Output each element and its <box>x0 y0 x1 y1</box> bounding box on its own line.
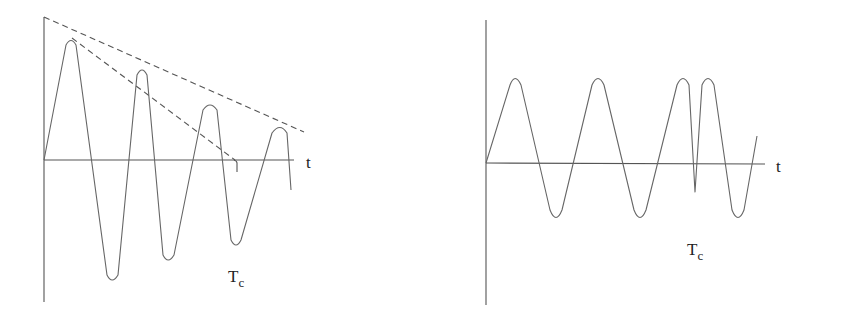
constant-wave <box>486 79 757 218</box>
figure: t Tc t Tc <box>0 0 845 314</box>
lower-envelope-line <box>72 38 235 160</box>
left-t-label: t <box>306 153 311 172</box>
right-diagram: t Tc <box>486 20 781 305</box>
upper-envelope-line <box>44 17 304 132</box>
tc-tick-left <box>234 160 237 172</box>
right-x-axis <box>486 163 765 164</box>
right-t-label: t <box>776 157 781 176</box>
right-tc-label: Tc <box>687 240 703 263</box>
left-diagram: t Tc <box>44 17 311 302</box>
left-tc-label: Tc <box>228 267 244 290</box>
